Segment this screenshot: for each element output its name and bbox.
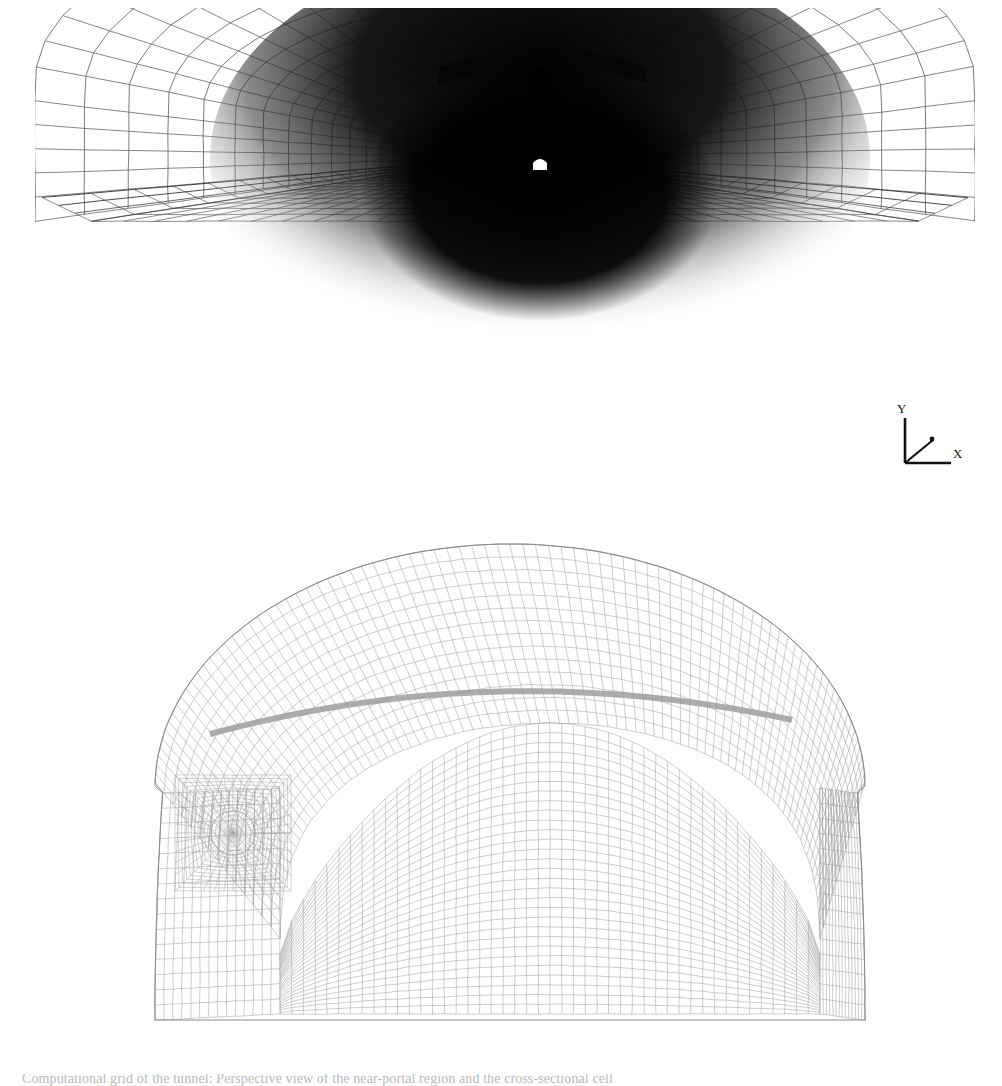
perspective-mesh-svg: Y X [35, 8, 975, 520]
axis-label-x: X [953, 446, 963, 461]
perspective-tunnel-mesh-panel: Y X [35, 8, 975, 520]
figure-root: Y X Computational grid of the tunnel: Pe… [0, 0, 1002, 1086]
axis-label-z [930, 437, 935, 442]
cross-section-mesh-svg [130, 538, 890, 1028]
cross-section-mesh-panel [130, 538, 890, 1028]
coordinate-axis-triad: Y X [897, 401, 963, 463]
suspended-ceiling-duct [210, 691, 792, 734]
axis-label-y: Y [897, 401, 907, 416]
jet-fan-ogrid-block [175, 775, 292, 891]
figure-caption: Computational grid of the tunnel: Perspe… [22, 1074, 982, 1086]
far-field-core [362, 65, 718, 321]
figure-caption-strip: Computational grid of the tunnel: Perspe… [0, 1074, 1002, 1086]
